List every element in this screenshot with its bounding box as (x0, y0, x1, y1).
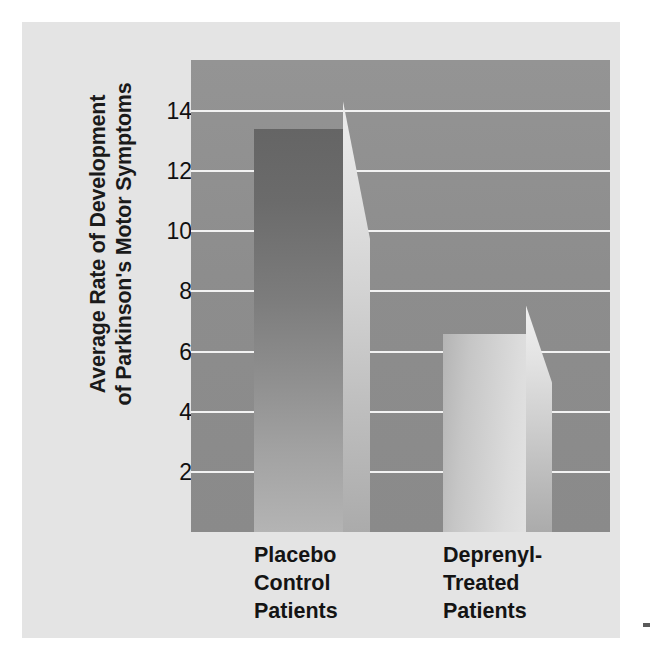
bar-1-front-face (254, 129, 343, 532)
chart-figure: Average Rate of Development of Parkinson… (22, 22, 620, 638)
x-axis-category-labels: PlaceboControlPatientsDeprenyl-TreatedPa… (191, 542, 610, 638)
category-label-2-line-3: Patients (443, 598, 542, 626)
category-label-1-line-2: Control (254, 570, 338, 598)
page-edge-artifact (643, 623, 650, 627)
y-axis-tick-label: 12 (148, 158, 192, 185)
y-axis-tick-label: 8 (148, 278, 192, 305)
plot-area (191, 60, 610, 532)
y-axis-tick-label: 4 (148, 398, 192, 425)
y-axis-tick-labels: 2468101214 (132, 22, 192, 638)
y-axis-title-line-1: Average Rate of Development (85, 95, 111, 393)
y-axis-tick-label: 2 (148, 458, 192, 485)
category-label-2-line-1: Deprenyl- (443, 542, 542, 570)
category-label-2-line-2: Treated (443, 570, 542, 598)
bar-2[interactable] (443, 306, 552, 532)
category-label-1-line-3: Patients (254, 598, 338, 626)
category-label-1: PlaceboControlPatients (254, 542, 338, 626)
category-label-1-line-1: Placebo (254, 542, 338, 570)
y-axis-tick-label: 10 (148, 218, 192, 245)
category-label-2: Deprenyl-TreatedPatients (443, 542, 542, 626)
bar-1-side-face (343, 101, 370, 532)
y-axis-tick-label: 6 (148, 338, 192, 365)
y-axis-tick-label: 14 (148, 98, 192, 125)
bar-1[interactable] (254, 101, 370, 532)
bar-2-front-face (443, 334, 526, 532)
bar-2-side-face (526, 306, 552, 532)
